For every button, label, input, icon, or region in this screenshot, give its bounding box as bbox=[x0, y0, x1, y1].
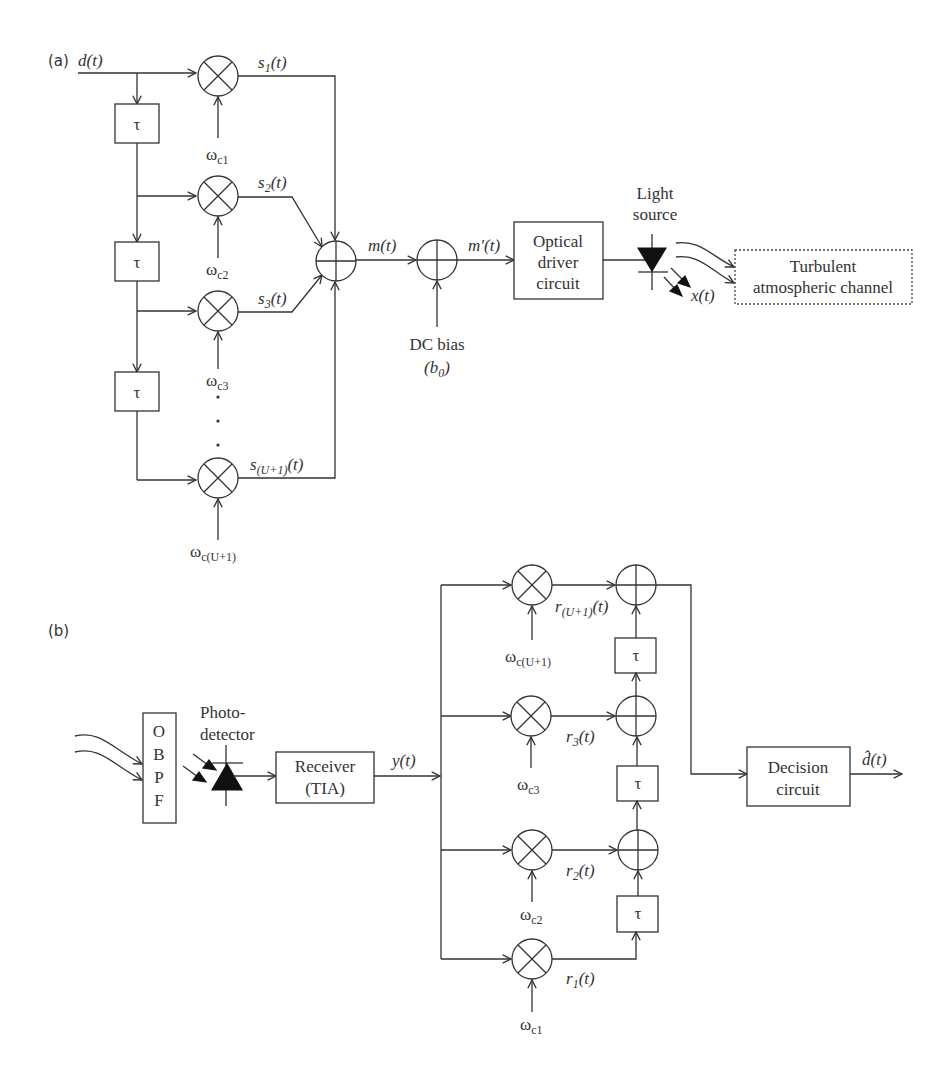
svg-text:τ: τ bbox=[635, 774, 642, 793]
part-a-transmitter: (a) d(t) τ τ τ bbox=[48, 51, 912, 564]
carrier-label-b-c1: ωc1 bbox=[520, 1015, 543, 1037]
demod-mixer-3 bbox=[511, 696, 551, 768]
carrier-label-b-c3: ωc3 bbox=[517, 775, 540, 797]
carrier-label-c2: ωc2 bbox=[206, 260, 229, 282]
signal-label-s2: s2(t) bbox=[258, 173, 287, 195]
svg-text:Turbulent: Turbulent bbox=[790, 257, 857, 276]
summer-main bbox=[316, 241, 356, 281]
demod-mixer-1 bbox=[512, 939, 552, 1012]
diagram-canvas: (a) d(t) τ τ τ bbox=[0, 0, 950, 1071]
signal-label-su1: s(U+1)(t) bbox=[250, 455, 304, 477]
carrier-label-c3: ωc3 bbox=[206, 371, 229, 393]
svg-text:atmospheric channel: atmospheric channel bbox=[753, 278, 893, 297]
signal-label-s3: s3(t) bbox=[258, 289, 287, 311]
mixer-u1 bbox=[198, 458, 238, 540]
biased-output-label: m′(t) bbox=[468, 236, 500, 255]
ellipsis-dot bbox=[216, 395, 219, 398]
carrier-label-b-c2: ωc2 bbox=[520, 905, 543, 927]
svg-text:τ: τ bbox=[635, 904, 642, 923]
mixer-1 bbox=[198, 56, 238, 138]
svg-text:circuit: circuit bbox=[776, 780, 820, 799]
receiver-output-label: y(t) bbox=[390, 751, 416, 770]
input-signal-label: d(t) bbox=[78, 51, 103, 70]
incoming-ray bbox=[75, 751, 142, 780]
demod-summer-u1 bbox=[616, 565, 656, 605]
svg-text:P: P bbox=[154, 768, 163, 787]
svg-text:τ: τ bbox=[134, 115, 141, 134]
carrier-label-c1: ωc1 bbox=[206, 145, 229, 167]
demod-summer-2 bbox=[618, 830, 658, 870]
demod-mixer-2 bbox=[512, 830, 552, 902]
svg-text:source: source bbox=[633, 205, 677, 224]
svg-text:τ: τ bbox=[134, 383, 141, 402]
branch-label-r1: r1(t) bbox=[566, 969, 595, 991]
signal-label-s1: s1(t) bbox=[258, 53, 287, 75]
sum-output-label: m(t) bbox=[368, 236, 397, 255]
decision-output-label: d̂(t) bbox=[862, 750, 887, 769]
svg-text:F: F bbox=[154, 791, 163, 810]
part-a-label: (a) bbox=[48, 52, 69, 70]
demod-summer-3 bbox=[616, 696, 656, 736]
svg-text:driver: driver bbox=[538, 253, 579, 272]
carrier-label-cu1: ωc(U+1) bbox=[190, 542, 236, 564]
emitted-signal-label: x(t) bbox=[690, 286, 715, 305]
svg-text:(TIA): (TIA) bbox=[305, 779, 345, 798]
svg-text:O: O bbox=[153, 722, 165, 741]
svg-text:Optical: Optical bbox=[533, 232, 583, 251]
light-source-label: Light bbox=[637, 184, 674, 203]
photodetector-label: Photo- bbox=[200, 703, 246, 722]
svg-text:detector: detector bbox=[200, 725, 255, 744]
dc-bias-symbol: (b0) bbox=[424, 358, 450, 380]
branch-label-r3: r3(t) bbox=[566, 727, 595, 749]
summer-dc-bias bbox=[417, 240, 457, 327]
svg-text:circuit: circuit bbox=[536, 274, 580, 293]
demod-mixer-u1 bbox=[512, 565, 552, 640]
mixer-2 bbox=[198, 176, 238, 258]
carrier-label-b-cu1: ωc(U+1) bbox=[505, 647, 551, 669]
part-b-label: (b) bbox=[48, 622, 69, 640]
svg-text:B: B bbox=[153, 745, 164, 764]
branch-label-ru1: r(U+1)(t) bbox=[555, 597, 609, 619]
mixer-3 bbox=[198, 291, 238, 369]
branch-label-r2: r2(t) bbox=[566, 861, 595, 883]
svg-text:τ: τ bbox=[134, 253, 141, 272]
svg-text:Receiver: Receiver bbox=[295, 757, 356, 776]
ellipsis-dot bbox=[216, 419, 219, 422]
led-icon bbox=[638, 234, 690, 296]
part-b-receiver: (b) O B P F Photo- detector Receiver (TI… bbox=[48, 565, 902, 1037]
dc-bias-label: DC bias bbox=[409, 335, 464, 354]
svg-text:Decision: Decision bbox=[768, 758, 829, 777]
ellipsis-dot bbox=[216, 443, 219, 446]
svg-text:τ: τ bbox=[633, 646, 640, 665]
